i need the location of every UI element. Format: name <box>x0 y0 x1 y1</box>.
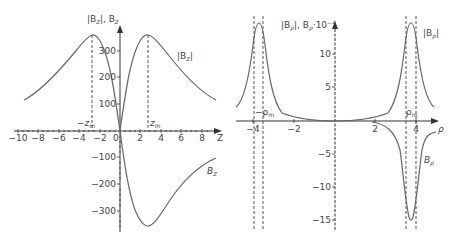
svg-text:−5: −5 <box>318 149 331 159</box>
svg-text:−10: −10 <box>312 182 331 192</box>
svg-text:−6: −6 <box>52 133 66 143</box>
svg-text:2: 2 <box>372 124 378 134</box>
right-chart: |Bρ|, Bρ·10−4 |Bρ| Bρ ρ −ρm ρm −4 −2 2 4… <box>236 16 444 230</box>
bz-curve <box>120 131 216 226</box>
x-tick-labels: −10 −8 −6 −4 −2 2 4 6 8 <box>9 133 206 143</box>
rm-neg-label: −ρm <box>255 107 274 118</box>
svg-text:300: 300 <box>99 46 116 56</box>
svg-text:−4: −4 <box>246 124 260 134</box>
svg-text:10: 10 <box>320 49 332 59</box>
svg-text:−10: −10 <box>9 133 28 143</box>
rho-tick-labels: −4 −2 2 4 <box>246 124 419 134</box>
rho-axis-label: ρ <box>438 124 444 134</box>
rho-y-tick-labels: 10 5 −5 −10 −15 <box>312 49 331 225</box>
origin-label: 0 <box>113 133 119 143</box>
bz-label: Bz <box>207 166 217 178</box>
svg-text:−100: −100 <box>91 152 116 162</box>
brho-curve <box>372 122 436 220</box>
zm-pos-label: zm <box>149 118 161 129</box>
svg-text:6: 6 <box>178 133 184 143</box>
svg-text:−2: −2 <box>93 133 106 143</box>
svg-text:5: 5 <box>325 82 331 92</box>
svg-text:8: 8 <box>199 133 205 143</box>
abs-brho-label: |Bρ| <box>423 28 439 40</box>
brho-label: Bρ <box>424 155 434 167</box>
svg-text:4: 4 <box>413 124 419 134</box>
svg-text:−8: −8 <box>31 133 45 143</box>
svg-text:4: 4 <box>158 133 164 143</box>
svg-text:−300: −300 <box>91 206 116 216</box>
svg-text:200: 200 <box>99 72 116 82</box>
zm-neg-label: −zm <box>77 118 95 129</box>
left-chart: |Bz|, Bz |Bz| Bz Z 0 −zm zm −10 −8 −6 −4… <box>9 14 224 232</box>
svg-text:−2: −2 <box>287 124 300 134</box>
y-axis-arrow-icon <box>117 25 123 33</box>
left-ylabel: |Bz|, Bz <box>87 14 119 26</box>
figure: |Bz|, Bz |Bz| Bz Z 0 −zm zm −10 −8 −6 −4… <box>0 0 457 240</box>
right-ylabel: |Bρ|, Bρ·10−4 <box>281 19 336 32</box>
svg-text:−200: −200 <box>91 179 116 189</box>
abs-bz-label: |Bz| <box>177 51 193 63</box>
svg-text:−4: −4 <box>72 133 86 143</box>
x-axis-label: Z <box>217 133 223 143</box>
svg-text:100: 100 <box>99 99 116 109</box>
svg-text:−15: −15 <box>312 215 331 225</box>
svg-text:2: 2 <box>137 133 143 143</box>
